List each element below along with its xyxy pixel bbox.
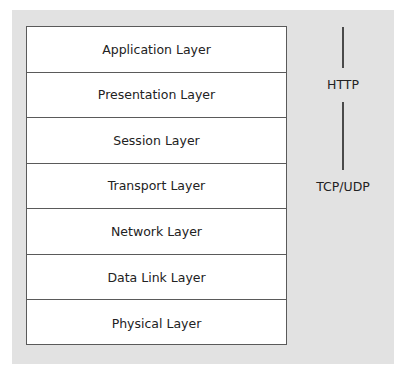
http-span-line-bottom — [342, 102, 344, 170]
layer-data-link: Data Link Layer — [27, 255, 286, 301]
layer-presentation: Presentation Layer — [27, 73, 286, 119]
http-label: HTTP — [300, 77, 386, 92]
layer-session: Session Layer — [27, 118, 286, 164]
layer-transport: Transport Layer — [27, 164, 286, 210]
layer-label: Data Link Layer — [107, 270, 205, 285]
layer-label: Transport Layer — [108, 178, 205, 193]
layer-label: Network Layer — [111, 224, 202, 239]
layer-label: Physical Layer — [112, 316, 202, 331]
layer-network: Network Layer — [27, 209, 286, 255]
osi-layer-stack: Application Layer Presentation Layer Ses… — [26, 26, 287, 345]
layer-label: Application Layer — [102, 42, 211, 57]
layer-label: Presentation Layer — [98, 87, 215, 102]
layer-physical: Physical Layer — [27, 300, 286, 346]
http-span-line-top — [342, 27, 344, 68]
layer-application: Application Layer — [27, 27, 286, 73]
layer-label: Session Layer — [113, 133, 200, 148]
tcp-udp-label: TCP/UDP — [300, 179, 386, 194]
